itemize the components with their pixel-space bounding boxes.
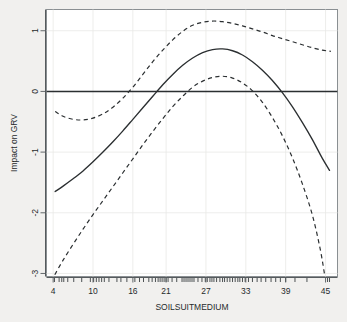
y-axis-tick-label: 0 <box>31 89 41 94</box>
y-axis-tick-label: -1 <box>31 148 41 156</box>
plot-area-frame <box>47 10 338 277</box>
x-axis-tick-label: 33 <box>241 286 251 296</box>
y-axis-tick-label: -3 <box>31 269 41 277</box>
x-axis-tick-label: 4 <box>51 286 56 296</box>
x-axis-tick-label: 39 <box>281 286 291 296</box>
chart-canvas: 41016212733394510-1-2-3SOILSUITMEDIUMImp… <box>0 0 347 322</box>
x-axis-tick-label: 45 <box>321 286 331 296</box>
x-axis-tick-label: 10 <box>88 286 98 296</box>
x-axis-title: SOILSUITMEDIUM <box>155 302 228 312</box>
x-axis-tick-label: 27 <box>201 286 211 296</box>
x-axis-tick-label: 21 <box>161 286 171 296</box>
x-axis-tick-label: 16 <box>128 286 138 296</box>
y-axis-title: Impact on GRV <box>9 114 19 172</box>
partial-effect-plot: 41016212733394510-1-2-3SOILSUITMEDIUMImp… <box>0 0 347 322</box>
y-axis-tick-label: 1 <box>31 28 41 33</box>
y-axis-tick-label: -2 <box>31 209 41 217</box>
